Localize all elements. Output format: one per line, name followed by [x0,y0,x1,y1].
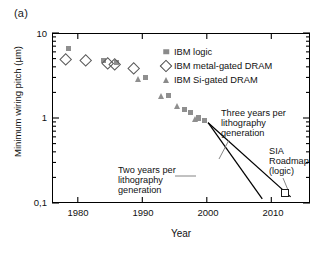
legend-item-label: IBM logic [174,47,212,57]
filled-square-icon [158,45,174,58]
data-point [281,189,289,197]
legend-item-ibm-metal-gated-dram: IBM metal-gated DRAM [158,59,272,72]
annotation-line: (logic) [269,167,309,177]
data-point [188,110,193,115]
data-point [174,103,180,109]
annotation-three-years: Three years per lithography generation [221,109,286,138]
y-axis-ticks: 10 1 0,1 [0,0,47,256]
annotation-sia-roadmap: SIA Roadmap (logic) [269,147,309,176]
data-point [79,54,92,67]
y-tick-label: 1 [42,112,47,123]
legend-item-ibm-si-gated-dram: IBM Si-gated DRAM [158,73,272,86]
annotation-line: generation [118,186,176,196]
legend-item-ibm-logic: IBM logic [158,45,272,58]
x-tick-label: 1980 [58,207,98,218]
chart-figure: (a) 10 1 0,1 1980 1990 2000 2010 Minimum… [0,0,325,256]
x-tick-label: 2010 [253,207,293,218]
data-point [59,53,72,66]
y-axis-label: Minimum wiring pitch (µm) [12,22,23,182]
data-point [143,75,148,80]
legend-item-label: IBM metal-gated DRAM [174,61,272,71]
filled-triangle-icon [158,73,174,86]
open-diamond-icon [158,59,174,72]
data-point [158,93,164,99]
data-point [135,76,141,82]
legend: IBM logic IBM metal-gated DRAM IBM Si-ga… [158,45,272,87]
data-point [127,62,140,75]
x-tick-label: 1990 [123,207,163,218]
legend-item-label: IBM Si-gated DRAM [174,75,258,85]
y-tick-label: 10 [36,28,47,39]
x-axis-label: Year [52,228,310,239]
data-point [66,46,71,51]
annotation-two-years: Two years per lithography generation [118,166,176,195]
data-point [166,93,171,98]
x-tick-label: 2000 [188,207,228,218]
data-point [202,118,207,123]
data-point [182,107,187,112]
data-point [192,116,198,122]
annotation-line: generation [221,129,286,139]
y-tick-label: 0,1 [34,197,47,208]
